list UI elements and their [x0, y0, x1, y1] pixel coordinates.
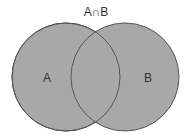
- venn-diagram: A∩B A B: [0, 0, 191, 140]
- intersection-title: A∩B: [84, 5, 109, 19]
- set-b-circle: [71, 23, 179, 131]
- set-b-label: B: [144, 71, 152, 85]
- set-a-label: A: [43, 71, 51, 85]
